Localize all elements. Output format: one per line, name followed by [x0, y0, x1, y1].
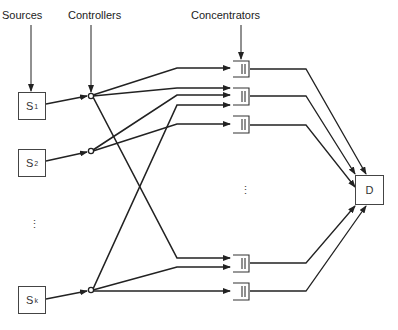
- source-box-k: Sk: [18, 286, 46, 314]
- source-box-2: S2: [18, 149, 46, 177]
- source-subscript: k: [34, 297, 38, 304]
- concentrator-2: [233, 88, 249, 105]
- source-subscript: 2: [34, 160, 38, 167]
- controller-1: [88, 93, 93, 98]
- network-diagram: [0, 0, 398, 330]
- source-label: S: [26, 100, 33, 112]
- concentrator-5: [233, 283, 249, 300]
- controller-k: [88, 287, 93, 292]
- concentrator-4: [233, 255, 249, 272]
- concentrator-1: [233, 61, 249, 77]
- source-subscript: 1: [34, 103, 38, 110]
- concentrator-3: [233, 116, 249, 133]
- source-label: S: [26, 294, 33, 306]
- source-box-1: S1: [18, 92, 46, 120]
- destination-label: D: [366, 184, 374, 196]
- destination-box: D: [355, 175, 384, 205]
- sources-ellipsis: ⋮: [29, 222, 35, 227]
- controller-2: [88, 148, 93, 153]
- concentrators-ellipsis: ⋮: [240, 188, 246, 193]
- source-label: S: [26, 157, 33, 169]
